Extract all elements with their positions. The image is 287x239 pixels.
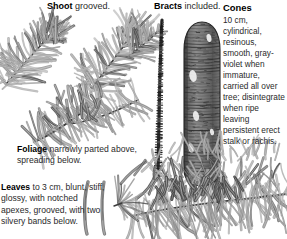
label-leaves-head: Leaves: [1, 182, 30, 192]
label-cones-head: Cones: [223, 2, 285, 14]
label-shoot-head: Shoot: [47, 1, 73, 11]
label-cones-body: 10 cm, cylindrical, resinous, smooth, gr…: [223, 15, 285, 145]
needle-fan-detail-figure: [112, 178, 152, 226]
label-bracts-body: included.: [185, 1, 221, 11]
label-shoot: Shoot grooved.: [47, 1, 110, 12]
label-foliage: Foliage narrowly parted above, spreading…: [17, 144, 149, 166]
fir-foliage-branch-figure: [6, 78, 156, 148]
field-guide-plate: Shoot grooved. Bracts included. Cones 10…: [0, 0, 287, 239]
label-foliage-head: Foliage: [17, 144, 47, 154]
label-leaves: Leaves to 3 cm, blunt, stiff, glossy, wi…: [1, 182, 106, 227]
label-cones: Cones 10 cm, cylindrical, resinous, smoo…: [223, 2, 285, 147]
label-shoot-body: grooved.: [75, 1, 110, 11]
label-bracts-head: Bracts: [154, 1, 182, 11]
needle-fan-svg: [112, 178, 152, 226]
label-bracts: Bracts included.: [154, 1, 221, 12]
fir-foliage-branch-svg: [6, 78, 156, 148]
